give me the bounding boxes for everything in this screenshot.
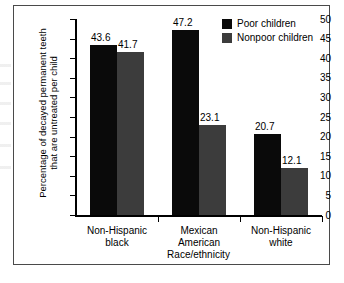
bar-value-label: 41.7 xyxy=(118,39,137,50)
bar-value-label: 12.1 xyxy=(282,155,301,166)
scan-bleed-artifact xyxy=(0,60,11,200)
bar-value-label: 20.7 xyxy=(255,121,274,132)
bar-nonpoor xyxy=(117,52,144,215)
bar-poor xyxy=(172,30,199,215)
x-tick-mark xyxy=(158,216,159,222)
legend-swatch-nonpoor-children xyxy=(222,33,232,43)
chart-legend: Poor children Nonpoor children xyxy=(219,15,327,48)
x-tick-mark xyxy=(322,216,323,222)
bar-value-label: 47.2 xyxy=(173,17,192,28)
bar-poor xyxy=(254,134,281,215)
bar-value-label: 43.6 xyxy=(91,32,110,43)
x-category-label: Non-Hispanic white xyxy=(226,225,336,248)
legend-item-poor-children: Poor children xyxy=(222,17,324,30)
legend-item-nonpoor-children: Nonpoor children xyxy=(222,31,324,44)
plot-area: Percentage of decayed permanent teeth th… xyxy=(14,6,331,266)
x-axis-title: Race/ethnicity xyxy=(75,249,322,260)
bar-nonpoor xyxy=(281,168,308,215)
bar-nonpoor xyxy=(199,125,226,216)
legend-label-nonpoor-children: Nonpoor children xyxy=(237,32,313,43)
x-tick-mark xyxy=(240,216,241,222)
bar-poor xyxy=(90,45,117,216)
chart-figure-frame: Percentage of decayed permanent teeth th… xyxy=(13,5,330,265)
legend-label-poor-children: Poor children xyxy=(237,18,296,29)
legend-swatch-poor-children xyxy=(222,19,232,29)
bar-value-label: 23.1 xyxy=(200,112,219,123)
